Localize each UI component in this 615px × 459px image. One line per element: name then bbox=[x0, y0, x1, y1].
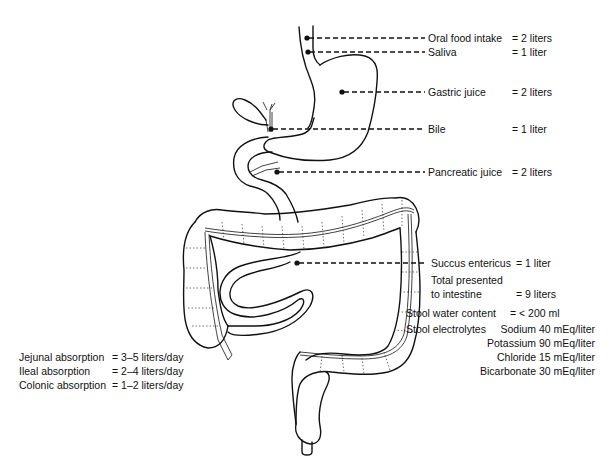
label-jejunal-absorption: Jejunal absorption bbox=[19, 351, 104, 363]
value-stool-water: = < 200 ml bbox=[510, 307, 560, 319]
label-gastric-juice: Gastric juice bbox=[428, 86, 486, 98]
rectum-shape bbox=[292, 352, 329, 455]
transverse-colon-shape bbox=[195, 197, 419, 250]
label-colonic-absorption: Colonic absorption bbox=[19, 379, 106, 391]
value-bile: = 1 liter bbox=[512, 123, 547, 135]
label-stool-water: Stool water content bbox=[406, 307, 496, 319]
value-saliva: = 1 liter bbox=[512, 46, 547, 58]
electrolyte-chloride: Chloride 15 mEq/liter bbox=[497, 351, 595, 363]
descending-colon-shape bbox=[296, 214, 420, 424]
value-gastric-juice: = 2 liters bbox=[512, 86, 552, 98]
label-oral-food-intake: Oral food intake bbox=[428, 32, 502, 44]
esophagus-shape bbox=[299, 26, 320, 128]
value-total: = 9 liters bbox=[516, 288, 556, 300]
label-total-line1: Total presented bbox=[431, 274, 503, 286]
leader-lines bbox=[268, 35, 425, 265]
gi-fluid-diagram: Oral food intake = 2 liters Saliva = 1 l… bbox=[0, 0, 615, 459]
value-oral-food-intake: = 2 liters bbox=[512, 32, 552, 44]
label-saliva: Saliva bbox=[428, 46, 457, 58]
value-colonic-absorption: = 1–2 liters/day bbox=[112, 379, 184, 391]
electrolyte-potassium: Potassium 90 mEq/liter bbox=[487, 337, 595, 349]
value-pancreatic-juice: = 2 liters bbox=[512, 166, 552, 178]
ascending-colon-shape bbox=[183, 222, 232, 360]
label-succus-entericus: Succus entericus bbox=[431, 257, 511, 269]
label-total-line2: to intestine bbox=[431, 288, 482, 300]
label-ileal-absorption: Ileal absorption bbox=[19, 365, 90, 377]
value-jejunal-absorption: = 3–5 liters/day bbox=[112, 351, 184, 363]
value-ileal-absorption: = 2–4 liters/day bbox=[112, 365, 184, 377]
label-pancreatic-juice: Pancreatic juice bbox=[428, 166, 502, 178]
value-succus-entericus: = 1 liter bbox=[516, 257, 551, 269]
electrolyte-bicarbonate: Bicarbonate 30 mEq/liter bbox=[480, 365, 595, 377]
stomach-shape bbox=[264, 55, 377, 161]
label-bile: Bile bbox=[428, 123, 446, 135]
gallbladder-shape bbox=[233, 99, 275, 132]
label-stool-electrolytes: Stool electrolytes bbox=[406, 323, 486, 335]
electrolyte-sodium: Sodium 40 mEq/liter bbox=[500, 323, 595, 335]
